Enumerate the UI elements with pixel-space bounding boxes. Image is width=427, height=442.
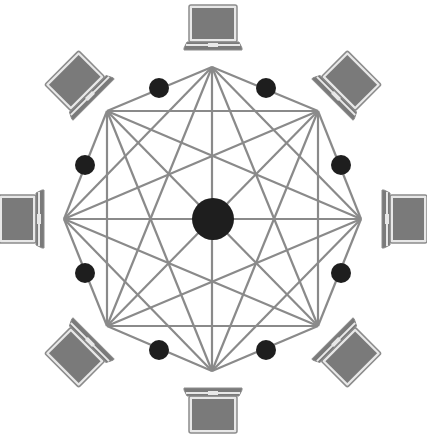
edge-node [149,78,169,98]
laptop-right-icon [382,190,427,248]
network-diagram-canvas [0,0,427,442]
laptop-bottom-icon [184,388,242,433]
central-hub [192,198,234,240]
edge-node [331,263,351,283]
laptop-bottom-right-icon [312,318,385,391]
edge-node [149,340,169,360]
edge-node [75,155,95,175]
laptop-bottom-left-icon [41,318,114,391]
mesh-link [107,67,212,326]
hub-node [192,198,234,240]
laptop-top-icon [184,5,242,50]
laptop-top-right-icon [312,47,385,120]
edge-node [75,263,95,283]
mesh-network-diagram [0,0,427,442]
edge-node [256,340,276,360]
edge-node [331,155,351,175]
laptop-top-left-icon [41,47,114,120]
mesh-link [107,219,361,326]
laptop-left-icon [0,190,44,248]
edge-node [256,78,276,98]
